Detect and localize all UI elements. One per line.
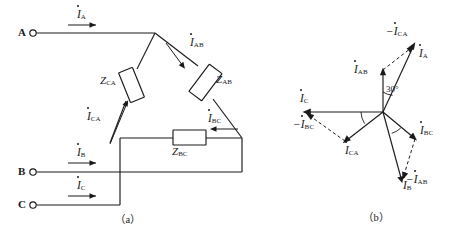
phasor-label-ia: IA — [419, 48, 428, 60]
phasor-neg-ica — [383, 45, 414, 70]
phasor-dot-b-iab: I — [354, 63, 358, 75]
current-arrow-ib — [68, 160, 96, 165]
current-label-ibc: IBC — [208, 113, 221, 125]
terminal-label-a: A — [18, 27, 26, 38]
phasor-ibc — [383, 112, 417, 140]
phasor-label-neg-iab: −IAB — [406, 174, 428, 186]
phasor-dot-b-neg-ibc: I — [301, 118, 305, 130]
impedance-box-zca — [119, 67, 145, 102]
phasor-dot-ia: I — [77, 8, 81, 20]
phasor-label-neg-ibc: −IBC — [293, 119, 314, 131]
angle-arc-ic-ica — [361, 112, 365, 124]
caption-panel-a: （a） — [115, 215, 141, 226]
phasor-minus-iab: − — [406, 173, 414, 185]
terminal-a-node — [30, 30, 36, 36]
phasor-subscript-iab: AB — [358, 68, 368, 76]
phasor-subscript-ia: A — [423, 52, 428, 60]
phasor-dot-b-ica: I — [345, 144, 349, 156]
phasor-subscript-neg-iab: AB — [418, 178, 428, 186]
current-subscript-ia: A — [81, 13, 86, 21]
phasor-ic — [303, 109, 384, 116]
current-subscript-ibc: BC — [212, 117, 222, 125]
impedance-subscript-zca: CA — [106, 79, 116, 87]
terminal-b-node — [30, 169, 36, 175]
phasor-ib — [383, 112, 404, 183]
current-label-ic: IC — [77, 180, 86, 192]
phasor-label-ica: ICA — [345, 145, 359, 157]
phasor-dot-iab: I — [190, 36, 194, 48]
current-arrow-ic — [68, 193, 96, 198]
current-label-ib: IB — [77, 147, 86, 159]
phasor-dot-ica: I — [87, 110, 91, 122]
impedance-subscript-zbc: BC — [178, 150, 187, 158]
phasor-dot-b-ibc: I — [420, 124, 424, 136]
phasor-dot-ibc: I — [208, 112, 212, 124]
phasor-subscript-ica: CA — [349, 149, 359, 157]
current-label-iab: IAB — [190, 37, 204, 49]
terminal-label-c: C — [18, 199, 26, 210]
phasor-label-ibc: IBC — [420, 125, 433, 137]
impedance-label-zca: ZCA — [100, 75, 116, 87]
impedance-label-zab: ZAB — [216, 74, 232, 86]
angle-label-30deg: 30° — [386, 85, 399, 94]
phasor-subscript-ibc: BC — [424, 129, 434, 137]
current-label-ica: ICA — [87, 111, 101, 123]
current-subscript-ica: CA — [91, 115, 101, 123]
phasor-label-neg-ica: −ICA — [386, 26, 408, 38]
angle-arc-ib-ibc — [392, 128, 401, 133]
current-subscript-ic: C — [81, 184, 86, 192]
current-label-ia: IA — [77, 9, 86, 21]
phasor-label-iab: IAB — [354, 64, 368, 76]
phasor-label-ic: IC — [300, 93, 309, 105]
terminal-label-b: B — [18, 166, 25, 177]
current-arrow-iab — [166, 43, 185, 69]
figure-container: A B C IA IB IC IAB IBC ICA ZAB ZBC ZCA （… — [0, 0, 457, 238]
current-subscript-iab: AB — [194, 41, 204, 49]
phasor-ica — [343, 112, 383, 143]
branch-ca-lower — [110, 101, 126, 143]
phasor-dot-b-neg-iab: I — [414, 173, 418, 185]
phasor-minus-ica: − — [386, 25, 394, 37]
phasor-subscript-ic: C — [304, 97, 309, 105]
impedance-label-zbc: ZBC — [172, 146, 187, 158]
phasor-subscript-neg-ica: CA — [398, 30, 408, 38]
phasor-dot-ic: I — [77, 179, 81, 191]
impedance-box-zbc — [173, 130, 206, 145]
phasor-subscript-neg-ibc: BC — [305, 123, 315, 131]
impedance-subscript-zab: AB — [222, 78, 232, 86]
branch-ca-upper — [137, 33, 155, 69]
phasor-dot-b-ia: I — [419, 47, 423, 59]
phasor-dot-b-ic: I — [300, 92, 304, 104]
current-subscript-ib: B — [81, 151, 86, 159]
current-arrow-ia — [68, 22, 96, 27]
caption-panel-b: （b） — [363, 213, 389, 224]
phasor-dot-ib: I — [77, 146, 81, 158]
terminal-c-node — [30, 202, 36, 208]
phasor-dot-b-neg-ica: I — [394, 25, 398, 37]
phasor-minus-ibc: − — [293, 118, 301, 130]
